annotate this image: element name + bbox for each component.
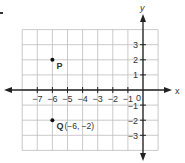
- x-tick-label: −5: [62, 94, 72, 104]
- x-tick-label: −7: [32, 94, 42, 104]
- axes: [4, 14, 172, 161]
- y-tick-label: −3: [128, 131, 138, 141]
- origin-label: 0: [136, 93, 141, 103]
- y-tick-label: 3: [133, 40, 138, 50]
- x-tick-label: −6: [47, 94, 57, 104]
- x-axis-right-arrow-icon: [164, 87, 172, 93]
- y-tick-label: 2: [133, 55, 138, 65]
- x-axis-left-arrow-icon: [4, 87, 12, 93]
- x-tick-label: −2: [108, 94, 118, 104]
- point-p: [50, 58, 54, 62]
- point-coordinates-q: (−6, −2): [64, 121, 94, 131]
- point-label-p: P: [56, 61, 62, 71]
- x-axis-label: x: [175, 86, 180, 96]
- y-tick-label: −2: [128, 116, 138, 126]
- coordinate-plane: xy−7−6−5−4−3−2−1321−1−2−30 PQ(−6, −2): [0, 0, 185, 163]
- point-q: [50, 118, 54, 122]
- point-label-q: Q: [56, 121, 63, 131]
- y-tick-label: 1: [133, 70, 138, 80]
- y-axis-down-arrow-icon: [140, 153, 146, 161]
- x-tick-label: −3: [93, 94, 103, 104]
- x-tick-label: −4: [77, 94, 87, 104]
- y-axis-up-arrow-icon: [140, 14, 146, 22]
- y-axis-label: y: [139, 3, 145, 13]
